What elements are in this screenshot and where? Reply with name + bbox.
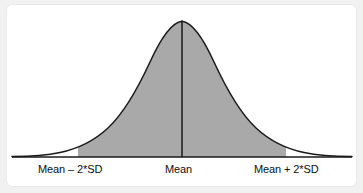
normal-distribution-figure: Mean – 2*SD Mean Mean + 2*SD xyxy=(0,0,363,193)
axis-label-mean-minus-2sd: Mean – 2*SD xyxy=(38,163,102,175)
axis-label-mean: Mean xyxy=(165,163,192,175)
axis-label-mean-plus-2sd: Mean + 2*SD xyxy=(254,163,319,175)
